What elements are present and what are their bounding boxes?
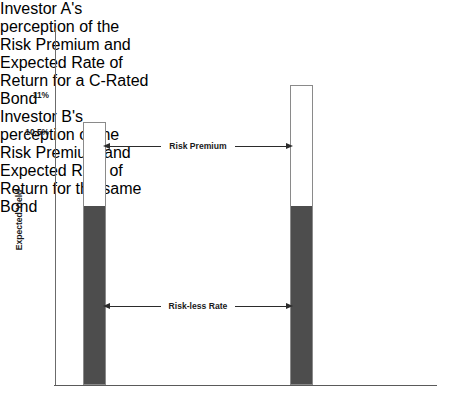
annotation-riskless-rate: Risk-less Rate <box>109 299 287 313</box>
arrow-right-head-icon <box>286 303 293 309</box>
bar-segment-riskless-b <box>291 206 312 384</box>
arrow-right-risk-premium <box>235 146 287 147</box>
bar-investor-a <box>83 122 106 385</box>
y-tick-lower: 10.5% <box>0 127 49 138</box>
arrow-left-risk-premium <box>109 146 161 147</box>
annotation-riskless-rate-label: Risk-less Rate <box>161 301 235 311</box>
y-tick-lower-label: 10.5% <box>25 127 49 137</box>
arrow-right-riskless <box>235 306 287 307</box>
annotation-risk-premium: Risk Premium <box>109 139 287 153</box>
chart-figure: Investor A's perception of the Risk Prem… <box>0 0 450 411</box>
arrow-left-head-icon <box>103 143 110 149</box>
y-tick-upper-label: 11% <box>33 90 49 100</box>
bar-segment-riskless-a <box>84 206 105 384</box>
y-tick-upper: 11% <box>0 90 49 101</box>
y-axis-line <box>55 28 56 385</box>
arrow-left-head-icon <box>103 303 110 309</box>
arrow-right-head-icon <box>286 143 293 149</box>
arrow-left-riskless <box>109 306 161 307</box>
x-axis-line <box>54 385 437 386</box>
bar-investor-b <box>290 85 313 385</box>
y-axis-title: Expected Yield <box>14 175 24 265</box>
annotation-risk-premium-label: Risk Premium <box>161 141 235 151</box>
